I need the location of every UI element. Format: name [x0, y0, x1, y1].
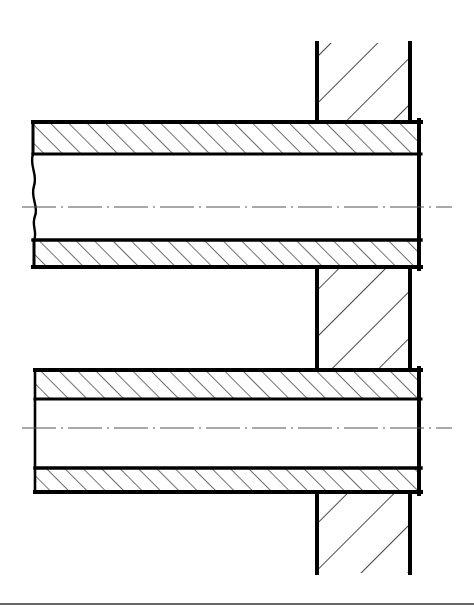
wall-segment-middle: [315, 265, 412, 372]
lower-pipe-top-wall-hatch: [35, 370, 421, 399]
lower-pipe-bore: [34, 397, 421, 469]
upper-pipe-assembly: [22, 120, 452, 269]
upper-pipe-bottom-wall: [33, 240, 421, 267]
technical-drawing-canvas: [0, 0, 474, 615]
section-view-svg: [0, 0, 474, 615]
lower-pipe-top-wall: [35, 370, 421, 399]
wall-segment-lower: [315, 491, 412, 573]
lower-pipe-bottom-wall: [35, 468, 421, 492]
upper-pipe-top-wall-hatch: [33, 122, 421, 154]
wall-segment-upper: [315, 43, 412, 124]
wall-upper-hatch-fill: [315, 43, 412, 124]
upper-pipe-top-wall: [33, 122, 421, 154]
lower-pipe-assembly: [22, 368, 452, 494]
wall-middle-hatch-fill: [315, 267, 412, 370]
upper-pipe-bore: [31, 152, 421, 242]
wall-lower-hatch-fill: [315, 491, 412, 573]
lower-pipe-bottom-wall-hatch: [35, 468, 421, 492]
upper-pipe-bottom-wall-hatch: [33, 240, 421, 267]
